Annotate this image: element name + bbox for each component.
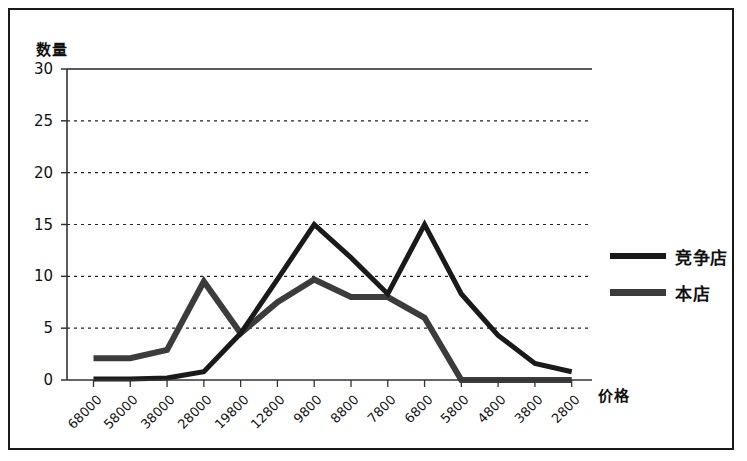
series-line-own-store [93, 279, 571, 380]
chart-legend: 竞争店 本店 [610, 238, 728, 310]
legend-item-own-store: 本店 [610, 274, 728, 310]
series-line-competitor [93, 225, 571, 379]
line-chart-plot [10, 10, 736, 452]
legend-line-icon-competitor [610, 253, 666, 259]
series-lines [93, 225, 571, 381]
legend-line-icon-own-store [610, 289, 666, 296]
legend-item-competitor: 竞争店 [610, 238, 728, 274]
legend-label-competitor: 竞争店 [675, 244, 728, 269]
legend-label-own-store: 本店 [675, 280, 710, 305]
chart-frame: 数量 价格 051015202530 680005800038000280001… [8, 8, 734, 450]
